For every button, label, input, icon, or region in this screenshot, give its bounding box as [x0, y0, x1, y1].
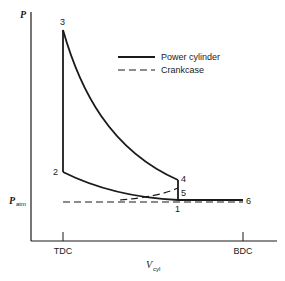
segment-2-1	[63, 172, 178, 200]
pv-diagram: TDC BDC P P atm V cyl 3 2 4 5 1 6 Power …	[0, 0, 285, 281]
y-axis-label: P	[20, 9, 27, 20]
point-label-2: 2	[53, 167, 58, 177]
legend-label-power: Power cylinder	[161, 52, 220, 62]
point-label-1: 1	[175, 204, 180, 214]
legend-label-crankcase: Crankcase	[161, 65, 204, 75]
point-label-3: 3	[60, 17, 65, 27]
bdc-label: BDC	[233, 246, 253, 256]
point-label-4: 4	[181, 174, 186, 184]
legend: Power cylinder Crankcase	[118, 52, 220, 75]
point-label-6: 6	[246, 196, 251, 206]
patm-sub: atm	[16, 201, 26, 207]
x-axis-sub: cyl	[153, 266, 160, 272]
tdc-label: TDC	[54, 246, 73, 256]
patm-label: P	[9, 195, 16, 206]
point-label-5: 5	[181, 188, 186, 198]
